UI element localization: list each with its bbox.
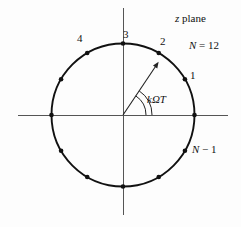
n-minus-one-rest: − 1 <box>199 143 216 155</box>
sample-label-n-minus-1: N − 1 <box>192 144 217 155</box>
z-plane-diagram <box>0 0 241 227</box>
sample-point-k0 <box>192 113 197 118</box>
n-value-label: N = 12 <box>189 40 219 51</box>
sample-point-k7 <box>59 148 64 153</box>
z-plane-title-word: plane <box>179 12 206 24</box>
sample-label-1: 1 <box>190 70 196 81</box>
radius-vector-arrowhead <box>153 62 159 69</box>
sample-label-3: 3 <box>123 29 129 40</box>
sample-point-k2 <box>156 51 161 56</box>
sample-point-k1 <box>183 77 188 82</box>
angle-arc-inner <box>136 96 146 115</box>
sample-point-k9 <box>121 184 126 189</box>
sample-point-k3 <box>121 41 126 46</box>
radius-vector-line <box>123 67 156 116</box>
sample-point-k6 <box>49 113 54 118</box>
sample-point-k11 <box>183 148 188 153</box>
sample-label-4: 4 <box>77 33 83 44</box>
angle-label: kΩT <box>147 94 166 105</box>
n-value-number: = 12 <box>196 39 219 51</box>
sample-point-k4 <box>85 51 90 56</box>
sample-label-2: 2 <box>160 36 166 47</box>
figure-canvas: z plane N = 12 4 3 2 1 kΩT N − 1 <box>0 0 241 227</box>
sample-point-k10 <box>156 175 161 180</box>
sample-point-k8 <box>85 175 90 180</box>
z-plane-title: z plane <box>175 13 206 24</box>
sample-point-k5 <box>59 77 64 82</box>
